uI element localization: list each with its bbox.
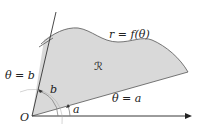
polar-region-diagram: r = f(θ) ℛ θ = b θ = a b a O xyxy=(0,0,199,128)
label-ray-b: θ = b xyxy=(5,69,35,82)
label-angle-b: b xyxy=(50,83,57,96)
label-origin: O xyxy=(20,111,29,124)
label-ray-a: θ = a xyxy=(112,92,141,105)
label-region: ℛ xyxy=(94,60,103,73)
axis-arrowhead-icon xyxy=(185,113,192,119)
label-curve: r = f(θ) xyxy=(109,28,150,41)
angle-arc-a xyxy=(68,106,70,116)
label-angle-a: a xyxy=(73,103,80,116)
